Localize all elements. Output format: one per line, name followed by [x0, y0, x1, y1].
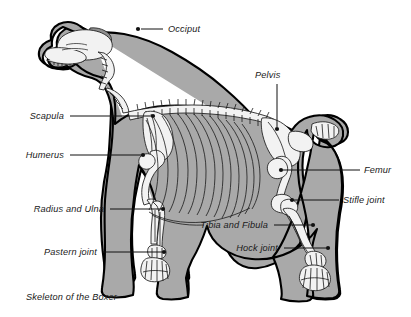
- callout-radius-and-ulna: Radius and Ulna: [34, 204, 165, 214]
- diagram-page: OcciputPelvisScapulaHumerusFemurRadius a…: [0, 0, 411, 317]
- skeleton-diagram: OcciputPelvisScapulaHumerusFemurRadius a…: [0, 0, 411, 317]
- leader-dot-femur: [279, 168, 283, 172]
- label-occiput: Occiput: [168, 24, 200, 34]
- label-hock-joint: Hock joint: [236, 243, 278, 253]
- callout-occiput: Occiput: [136, 24, 201, 34]
- leader-dot-stifle-joint: [290, 198, 294, 202]
- label-stifle-joint: Stifle joint: [343, 195, 385, 205]
- leader-dot-humerus: [141, 153, 145, 157]
- leader-dot-radius-and-ulna: [161, 207, 165, 211]
- label-scapula: Scapula: [30, 111, 64, 121]
- label-humerus: Humerus: [26, 150, 65, 160]
- leader-dot-tibia-and-fibula: [311, 223, 315, 227]
- leader-dot-pastern-joint: [162, 250, 166, 254]
- label-radius-and-ulna: Radius and Ulna: [34, 204, 104, 214]
- leader-dot-hock-joint: [326, 246, 330, 250]
- label-pelvis: Pelvis: [255, 70, 281, 80]
- front-phalanges: [141, 258, 170, 282]
- dog-body-silhouette: [39, 22, 348, 301]
- leader-dot-pelvis: [275, 127, 279, 131]
- label-tibia-and-fibula: Tibia and Fibula: [200, 220, 268, 230]
- label-femur: Femur: [364, 165, 392, 175]
- figure-caption: Skeleton of the Boxer: [26, 292, 118, 302]
- caudal-vertebrae-tail: [311, 122, 339, 140]
- rear-phalanges: [299, 265, 330, 291]
- label-pastern-joint: Pastern joint: [44, 247, 97, 257]
- radius-and-ulna: [147, 199, 165, 247]
- leader-dot-occiput: [136, 27, 140, 31]
- leader-dot-scapula: [151, 114, 155, 118]
